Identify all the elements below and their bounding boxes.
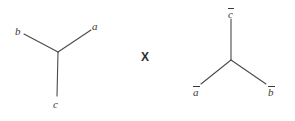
label-left-c: c <box>53 99 58 110</box>
label-right-a-bar: a <box>193 86 199 98</box>
figure-canvas: b a c X c a b <box>0 0 295 121</box>
label-left-b: b <box>15 26 21 37</box>
edge-right-a-bar <box>201 60 231 84</box>
overline-wrap-a: a <box>193 86 199 98</box>
label-right-b-bar: b <box>268 86 274 98</box>
edge-left-b <box>24 34 58 52</box>
edge-left-a <box>58 30 91 52</box>
overline-wrap-c: c <box>228 8 233 20</box>
edge-right-b-bar <box>231 60 266 84</box>
edge-left-c <box>57 52 58 96</box>
overline-wrap-b: b <box>268 86 274 98</box>
label-left-a: a <box>92 21 98 32</box>
label-right-c-bar: c <box>228 8 233 20</box>
multiplication-cross-icon: X <box>141 51 149 63</box>
